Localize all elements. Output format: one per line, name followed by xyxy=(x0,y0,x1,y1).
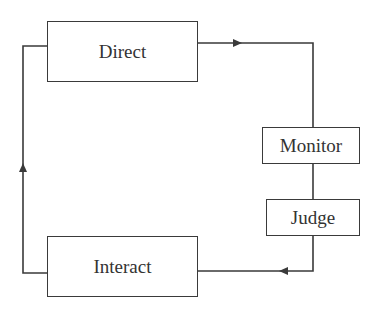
arrow-left-icon xyxy=(279,267,288,275)
node-judge: Judge xyxy=(266,199,360,236)
edge-interact-to-direct xyxy=(23,46,47,273)
arrow-up-icon xyxy=(19,163,27,172)
node-monitor: Monitor xyxy=(262,127,360,164)
node-label: Monitor xyxy=(280,135,342,157)
node-label: Judge xyxy=(291,207,335,229)
node-label: Interact xyxy=(93,256,151,278)
edge-direct-to-monitor xyxy=(197,43,313,127)
edge-judge-to-interact xyxy=(197,235,313,271)
arrow-right-icon xyxy=(233,39,242,47)
node-label: Direct xyxy=(99,41,146,63)
node-interact: Interact xyxy=(47,236,198,297)
node-direct: Direct xyxy=(47,21,198,82)
